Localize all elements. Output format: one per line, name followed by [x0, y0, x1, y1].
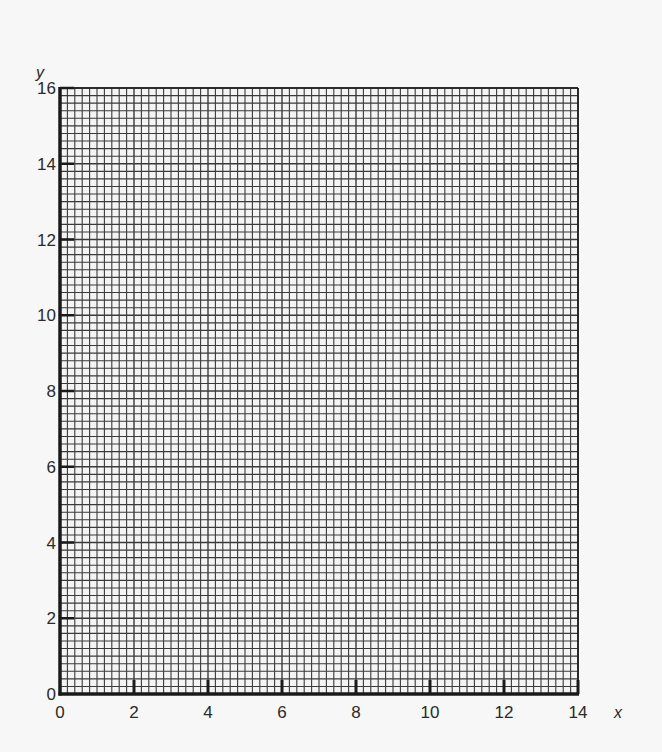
graph-paper-chart: 02468101214 0246810121416 x y [0, 0, 662, 752]
y-tick-label: 2 [47, 609, 56, 628]
grid-lines [60, 88, 578, 694]
x-tick-label: 2 [129, 703, 138, 722]
x-tick-label: 12 [495, 703, 514, 722]
y-tick-label: 6 [47, 458, 56, 477]
x-tick-label: 14 [569, 703, 588, 722]
y-tick-label: 8 [47, 382, 56, 401]
y-tick-label: 14 [37, 155, 56, 174]
x-tick-label: 10 [421, 703, 440, 722]
x-tick-label: 8 [351, 703, 360, 722]
x-axis-label: x [613, 704, 623, 721]
x-tick-label: 4 [203, 703, 212, 722]
y-axis-label: y [35, 64, 45, 81]
x-tick-label: 6 [277, 703, 286, 722]
y-tick-label: 4 [47, 534, 56, 553]
x-tick-label: 0 [55, 703, 64, 722]
y-tick-label: 12 [37, 231, 56, 250]
y-tick-label: 16 [37, 79, 56, 98]
y-tick-label: 0 [47, 685, 56, 704]
y-tick-label: 10 [37, 306, 56, 325]
